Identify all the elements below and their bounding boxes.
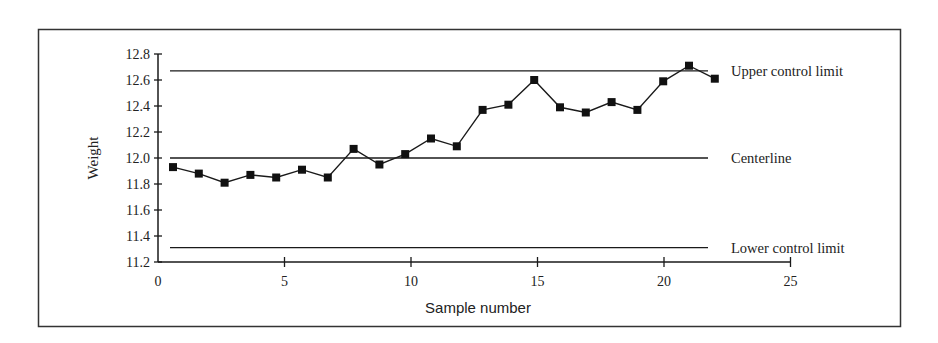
series-line (173, 66, 715, 183)
y-axis-label: Weight (85, 136, 101, 180)
y-tick-label: 12.4 (126, 99, 151, 114)
upper-control-limit-label: Upper control limit (731, 63, 843, 79)
data-point-marker (453, 142, 461, 150)
data-point-marker (504, 101, 512, 109)
data-point-marker (246, 171, 254, 179)
x-tick-label: 5 (281, 274, 288, 289)
y-tick-label: 12.2 (126, 125, 151, 140)
control-limit-labels: Upper control limitCenterlineLower contr… (731, 63, 845, 256)
data-point-marker (375, 161, 383, 169)
data-point-marker (350, 145, 358, 153)
data-point-marker (633, 106, 641, 114)
data-point-marker (711, 75, 719, 83)
x-tick-label: 10 (404, 274, 418, 289)
data-point-marker (582, 109, 590, 117)
data-point-marker (427, 135, 435, 143)
data-point-marker (530, 76, 538, 84)
data-point-marker (659, 77, 667, 85)
y-axis-ticks: 11.211.411.611.812.012.212.412.612.8 (126, 47, 163, 270)
control-chart: 11.211.411.611.812.012.212.412.612.8 051… (0, 0, 938, 343)
data-point-marker (401, 150, 409, 158)
data-point-marker (272, 174, 280, 182)
chart-canvas: 11.211.411.611.812.012.212.412.612.8 051… (0, 0, 938, 343)
y-tick-label: 11.8 (126, 177, 150, 192)
control-limit-lines (170, 71, 708, 248)
x-tick-label: 15 (531, 274, 545, 289)
lower-control-limit-label: Lower control limit (731, 240, 845, 256)
x-tick-label: 0 (155, 274, 162, 289)
data-point-marker (479, 106, 487, 114)
data-point-marker (556, 103, 564, 111)
y-tick-label: 11.4 (126, 229, 150, 244)
y-tick-label: 12.8 (126, 47, 151, 62)
centerline-label: Centerline (731, 150, 791, 166)
data-point-marker (298, 166, 306, 174)
data-point-marker (685, 62, 693, 70)
x-tick-label: 20 (657, 274, 671, 289)
y-tick-label: 11.6 (126, 203, 150, 218)
y-tick-label: 12.0 (126, 151, 151, 166)
axes: 11.211.411.611.812.012.212.412.612.8 051… (126, 47, 798, 289)
data-point-marker (324, 174, 332, 182)
data-point-marker (169, 163, 177, 171)
data-point-marker (195, 170, 203, 178)
data-point-marker (608, 98, 616, 106)
data-point-marker (221, 179, 229, 187)
y-tick-label: 12.6 (126, 73, 151, 88)
y-tick-label: 11.2 (126, 255, 150, 270)
x-axis-label: Sample number (425, 299, 531, 316)
data-series (169, 62, 719, 187)
x-tick-label: 25 (784, 274, 798, 289)
